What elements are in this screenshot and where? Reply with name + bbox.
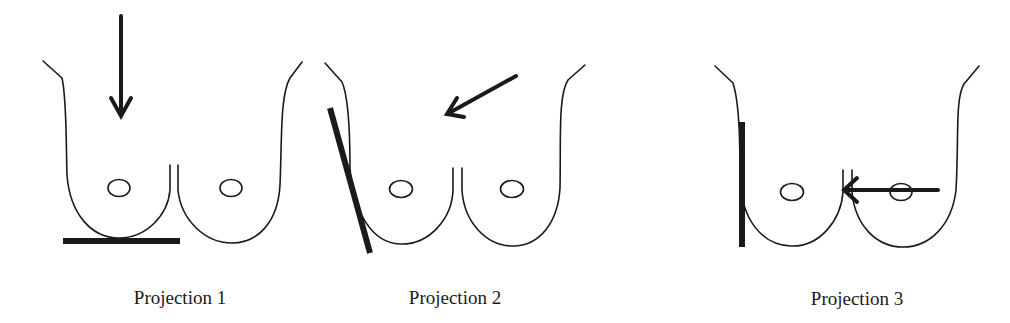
right-nipple [220, 180, 242, 197]
left-breast-outline [43, 61, 170, 238]
left-nipple [390, 181, 413, 198]
panel-projection-1: Projection 1 [43, 16, 302, 308]
right-breast-outline [178, 62, 302, 243]
right-breast-outline [462, 65, 585, 246]
panel-projection-2: Projection 2 [325, 63, 585, 308]
beam-arrow-shaft [449, 76, 516, 113]
right-nipple [501, 181, 524, 198]
panel-projection-3: Projection 3 [715, 66, 979, 309]
projection-label: Projection 2 [409, 287, 501, 308]
projection-label: Projection 1 [134, 287, 226, 308]
projection-diagram: Projection 1 Projection 2 Projection 3 [0, 0, 1010, 323]
detector-plate [330, 108, 370, 253]
left-breast-outline [715, 66, 843, 246]
left-nipple [108, 180, 130, 197]
left-nipple [781, 184, 804, 201]
projection-label: Projection 3 [811, 288, 903, 309]
right-breast-outline [852, 66, 979, 247]
